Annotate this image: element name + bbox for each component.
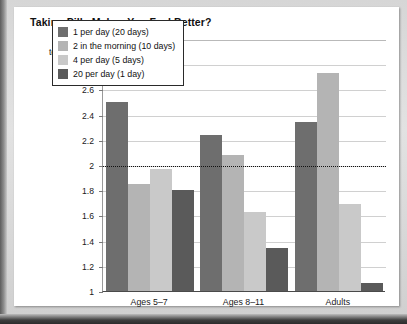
reference-line	[103, 166, 386, 167]
legend-swatch-icon	[58, 55, 68, 65]
y-axis-tick-label: 1.8	[68, 186, 94, 196]
legend-item-label: 20 per day (1 day)	[73, 69, 144, 79]
legend-swatch-icon	[58, 69, 68, 79]
bar-group	[197, 39, 291, 291]
legend-swatch-icon	[58, 27, 68, 37]
legend: 1 per day (20 days)2 in the morning (10 …	[52, 20, 184, 86]
bar-group	[292, 39, 386, 291]
legend-item: 2 in the morning (10 days)	[58, 39, 175, 53]
chart-card: Taking Pills Makes You Feel Better? 1 = …	[14, 7, 399, 306]
page-left-edge	[0, 0, 7, 324]
bar	[295, 122, 317, 291]
bar	[244, 212, 266, 291]
y-axis-tick-label: 2.2	[68, 136, 94, 146]
bar	[200, 135, 222, 291]
bar	[150, 169, 172, 291]
legend-item: 1 per day (20 days)	[58, 25, 175, 39]
bar	[339, 204, 361, 291]
legend-item-label: 4 per day (5 days)	[73, 55, 144, 65]
bar	[128, 184, 150, 291]
x-axis-label: Adults	[291, 293, 385, 307]
y-axis-tick-label: 2.6	[68, 85, 94, 95]
legend-item: 20 per day (1 day)	[58, 67, 175, 81]
page-bottom-edge	[0, 314, 407, 324]
y-axis-tick-label: 1	[68, 287, 94, 297]
legend-item-label: 1 per day (20 days)	[73, 27, 149, 37]
bar	[106, 102, 128, 291]
bar	[172, 190, 194, 291]
bar	[266, 248, 288, 291]
legend-swatch-icon	[58, 41, 68, 51]
y-axis-tick-label: 1.2	[68, 262, 94, 272]
y-axis-tick-label: 2.4	[68, 111, 94, 121]
bar	[222, 155, 244, 291]
x-axis-labels: Ages 5–7Ages 8–11Adults	[102, 293, 385, 307]
legend-item-label: 2 in the morning (10 days)	[73, 41, 175, 51]
y-axis-tick-label: 1.6	[68, 211, 94, 221]
y-axis-tick-label: 1.4	[68, 237, 94, 247]
x-axis-label: Ages 8–11	[196, 293, 290, 307]
y-axis-tick-label: 2	[68, 161, 94, 171]
bar	[317, 73, 339, 291]
x-axis-label: Ages 5–7	[102, 293, 196, 307]
bar	[361, 283, 383, 291]
page-background: Taking Pills Makes You Feel Better? 1 = …	[0, 0, 407, 324]
legend-item: 4 per day (5 days)	[58, 53, 175, 67]
